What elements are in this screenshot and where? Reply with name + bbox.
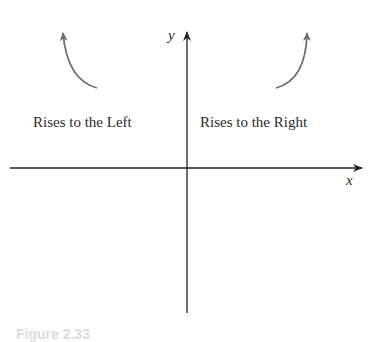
rises-right-label: Rises to the Right xyxy=(200,114,307,131)
figure-caption: Figure 2.33 xyxy=(16,326,90,342)
rises-left-label: Rises to the Left xyxy=(33,114,132,131)
rises-right-arrow-icon xyxy=(276,33,307,88)
rises-left-arrow-icon xyxy=(63,33,97,88)
y-axis-label: y xyxy=(168,27,175,44)
x-axis-label: x xyxy=(346,172,353,189)
